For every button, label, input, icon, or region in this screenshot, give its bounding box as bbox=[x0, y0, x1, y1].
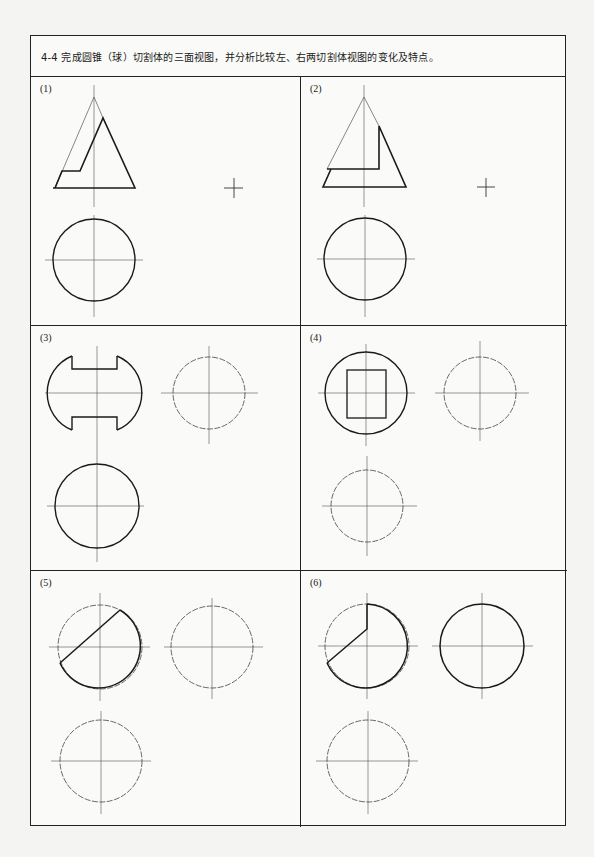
sphere-three-view-drawing bbox=[31, 571, 301, 827]
cone-three-view-drawing bbox=[31, 77, 301, 326]
sphere-three-view-drawing bbox=[301, 326, 567, 571]
exercise-header: 4-4 完成圆锥（球）切割体的三面视图，并分析比较左、右两切割体视图的变化及特点… bbox=[31, 36, 565, 77]
panel-3: (3) bbox=[31, 326, 301, 571]
sphere-three-view-drawing bbox=[31, 326, 301, 571]
panel-4: (4) bbox=[301, 326, 567, 571]
panel-6: (6) bbox=[301, 571, 567, 827]
sphere-three-view-drawing bbox=[301, 571, 567, 827]
exercise-frame: 4-4 完成圆锥（球）切割体的三面视图，并分析比较左、右两切割体视图的变化及特点… bbox=[30, 35, 566, 826]
cone-three-view-drawing bbox=[301, 77, 567, 326]
panel-1: (1) bbox=[31, 77, 301, 326]
exercise-title: 4-4 完成圆锥（球）切割体的三面视图，并分析比较左、右两切割体视图的变化及特点… bbox=[41, 49, 439, 64]
panel-2: (2) bbox=[301, 77, 567, 326]
panel-5: (5) bbox=[31, 571, 301, 827]
